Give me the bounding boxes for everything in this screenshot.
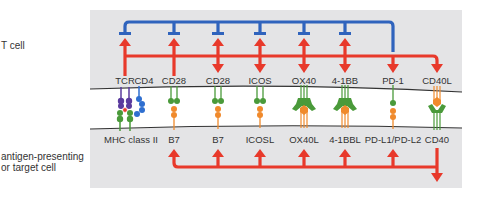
label-4-1bbl: 4-1BBL <box>329 134 361 145</box>
label-4-1bb: 4-1BB <box>332 75 358 86</box>
label-cd4: CD4 <box>134 75 153 86</box>
label-cd28-b: CD28 <box>206 75 230 86</box>
label-cd40l: CD40L <box>422 75 452 86</box>
label-cd28-a: CD28 <box>162 75 186 86</box>
label-icos: ICOS <box>248 75 271 86</box>
label-mhc-class-ii: MHC class II <box>104 134 158 145</box>
label-pd-l1-pd-l2: PD-L1/PD-L2 <box>365 134 422 145</box>
costimulation-diagram: TCR CD4 CD28 CD28 ICOS OX40 4-1BB PD-1 C… <box>0 0 478 201</box>
label-b7-b: B7 <box>212 134 224 145</box>
label-tcr: TCR <box>115 75 135 86</box>
label-cd40: CD40 <box>425 134 449 145</box>
label-pd-1: PD-1 <box>382 75 404 86</box>
label-b7-a: B7 <box>168 134 180 145</box>
synapse-gap <box>90 86 462 129</box>
label-ox40l: OX40L <box>289 134 319 145</box>
label-icosl: ICOSL <box>246 134 275 145</box>
label-ox40: OX40 <box>292 75 316 86</box>
